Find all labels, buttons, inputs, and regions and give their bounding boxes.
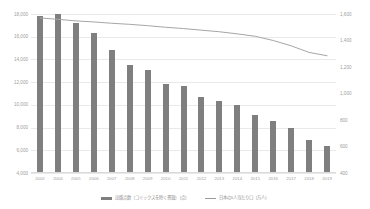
x-axis-tick-label: 2005 — [67, 176, 85, 181]
x-axis-tick-label: 2018 — [300, 176, 318, 181]
line-path — [40, 18, 327, 56]
y-axis-right-tick-label: 600 — [340, 144, 368, 149]
y-axis-left-tick-label: 10,000 — [2, 102, 28, 107]
legend-item-label: 日本の1人当たり口（万人） — [219, 195, 269, 201]
legend-item-line[interactable]: 日本の1人当たり口（万人） — [205, 195, 269, 201]
chart-legend: 出版点数（コミックスを除く書籍）（点） 日本の1人当たり口（万人） — [0, 192, 370, 204]
x-axis-tick-label: 2006 — [85, 176, 103, 181]
x-axis-tick-label: 2019 — [318, 176, 336, 181]
y-axis-right-tick-label: 1,200 — [340, 65, 368, 70]
x-axis-tick-label: 2011 — [175, 176, 193, 181]
x-axis-tick-label: 2012 — [192, 176, 210, 181]
gridline — [31, 173, 336, 174]
y-axis-left-tick-label: 14,000 — [2, 57, 28, 62]
line-series — [31, 14, 336, 173]
legend-line-swatch-icon — [205, 198, 216, 199]
y-axis-left-tick-label: 4,000 — [2, 171, 28, 176]
chart-container: 4,0006,0008,00010,00012,00014,00016,0001… — [0, 0, 370, 209]
y-axis-left-tick-label: 18,000 — [2, 12, 28, 17]
legend-item-bar[interactable]: 出版点数（コミックスを除く書籍）（点） — [101, 195, 189, 201]
y-axis-right-tick-label: 1,600 — [340, 12, 368, 17]
x-axis-tick-label: 2013 — [210, 176, 228, 181]
x-axis-tick-label: 2009 — [139, 176, 157, 181]
y-axis-left-tick-label: 12,000 — [2, 80, 28, 85]
x-axis-tick-label: 2015 — [246, 176, 264, 181]
y-axis-right-tick-label: 400 — [340, 171, 368, 176]
x-axis-tick-label: 2010 — [157, 176, 175, 181]
x-axis-tick-label: 2004 — [49, 176, 67, 181]
x-axis-tick-label: 2014 — [228, 176, 246, 181]
x-axis-tick-label: 2002 — [31, 176, 49, 181]
legend-bar-swatch-icon — [101, 197, 112, 200]
x-axis-line — [31, 172, 336, 173]
y-axis-right-tick-label: 1,000 — [340, 91, 368, 96]
x-axis-tick-label: 2017 — [282, 176, 300, 181]
legend-item-label: 出版点数（コミックスを除く書籍）（点） — [115, 195, 189, 201]
x-axis-tick-label: 2016 — [264, 176, 282, 181]
y-axis-left-tick-label: 6,000 — [2, 148, 28, 153]
y-axis-right-tick-label: 800 — [340, 118, 368, 123]
y-axis-left-tick-label: 8,000 — [2, 125, 28, 130]
y-axis-left-tick-label: 16,000 — [2, 34, 28, 39]
x-axis-tick-label: 2007 — [103, 176, 121, 181]
x-axis-tick-label: 2008 — [121, 176, 139, 181]
y-axis-right-tick-label: 1,400 — [340, 38, 368, 43]
plot-area — [31, 14, 336, 173]
